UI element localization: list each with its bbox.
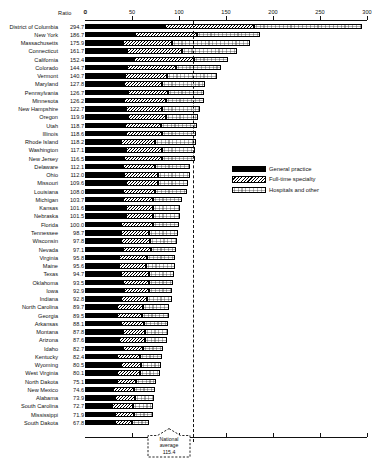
- row-state-label: California: [34, 57, 58, 63]
- bar-segment-general-practice: [85, 280, 123, 286]
- bar-segment-hospitals-and-other: [132, 420, 149, 426]
- bar-segment-hospitals-and-other: [153, 197, 183, 203]
- bar-segment-hospitals-and-other: [135, 395, 155, 401]
- bar-segment-full-time-specialty: [123, 189, 155, 195]
- bar-segment-full-time-specialty: [128, 90, 167, 96]
- stacked-bar: [85, 370, 160, 376]
- stacked-bar: [85, 40, 250, 46]
- table-row: West Virginia80.1: [0, 370, 376, 378]
- stacked-bar: [85, 164, 190, 170]
- row-ratio-value: 74.6: [58, 387, 84, 393]
- bar-segment-full-time-specialty: [165, 24, 254, 30]
- bar-segment-general-practice: [85, 73, 125, 79]
- row-state-label: Michigan: [36, 197, 58, 203]
- bar-segment-general-practice: [85, 379, 117, 385]
- bar-segment-full-time-specialty: [112, 403, 133, 409]
- bar-segment-general-practice: [85, 180, 126, 186]
- row-state-label: Arizona: [39, 337, 58, 343]
- row-state-label: Alabama: [36, 395, 58, 401]
- x-tick-label-300: 300: [362, 9, 371, 15]
- bar-segment-full-time-specialty: [126, 106, 162, 112]
- bar-segment-full-time-specialty: [127, 65, 176, 71]
- x-tick-bottom-50: [132, 433, 133, 437]
- bar-segment-hospitals-and-other: [140, 370, 161, 376]
- stacked-bar: [85, 387, 155, 393]
- x-tick-bottom-300: [367, 433, 368, 437]
- bar-segment-hospitals-and-other: [155, 164, 191, 170]
- row-ratio-value: 95.6: [58, 263, 84, 269]
- row-ratio-value: 175.9: [58, 40, 84, 46]
- bar-segment-general-practice: [85, 57, 134, 63]
- bar-segment-general-practice: [85, 98, 124, 104]
- row-state-label: Missouri: [37, 180, 58, 186]
- row-ratio-value: 186.7: [58, 32, 84, 38]
- x-tick-label-100: 100: [174, 9, 183, 15]
- bar-segment-full-time-specialty: [125, 73, 166, 79]
- bar-segment-general-practice: [85, 222, 121, 228]
- bar-segment-hospitals-and-other: [162, 131, 196, 137]
- bar-segment-general-practice: [85, 370, 117, 376]
- table-row: Connecticut161.7: [0, 48, 376, 56]
- bar-segment-general-practice: [85, 354, 117, 360]
- bar-segment-general-practice: [85, 247, 123, 253]
- stacked-bar: [85, 114, 198, 120]
- stacked-bar: [85, 98, 204, 104]
- national-average-callout: National average 115.4: [147, 428, 191, 458]
- bar-segment-full-time-specialty: [135, 32, 197, 38]
- x-tick-label-0: 0: [84, 9, 87, 15]
- bar-segment-general-practice: [85, 32, 135, 38]
- table-row: Kentucky82.4: [0, 353, 376, 361]
- bar-segment-hospitals-and-other: [142, 313, 169, 319]
- bar-segment-general-practice: [85, 296, 121, 302]
- bar-segment-full-time-specialty: [115, 420, 132, 426]
- bar-segment-full-time-specialty: [121, 271, 149, 277]
- stacked-bar: [85, 329, 168, 335]
- x-tick-100: [179, 16, 180, 20]
- row-ratio-value: 87.8: [58, 329, 84, 335]
- physician-ratio-chart: Ratio 050100150200250300 District of Col…: [0, 0, 376, 468]
- legend-label: Hospitals and other: [269, 187, 319, 193]
- bar-segment-full-time-specialty: [126, 131, 162, 137]
- row-state-label: New Jersey: [29, 156, 58, 162]
- row-ratio-value: 152.4: [58, 57, 84, 63]
- table-row: Michigan103.7: [0, 196, 376, 204]
- bar-segment-hospitals-and-other: [153, 222, 179, 228]
- bar-segment-hospitals-and-other: [153, 205, 181, 211]
- table-row: Missouri109.6: [0, 180, 376, 188]
- row-ratio-value: 109.6: [58, 180, 84, 186]
- bar-segment-general-practice: [85, 288, 124, 294]
- bar-segment-full-time-specialty: [115, 395, 135, 401]
- bar-segment-hospitals-and-other: [162, 81, 205, 87]
- bar-segment-full-time-specialty: [134, 57, 194, 63]
- stacked-bar: [85, 81, 205, 87]
- table-row: New York186.7: [0, 31, 376, 39]
- table-row: Alabama73.9: [0, 395, 376, 403]
- bar-segment-hospitals-and-other: [133, 403, 153, 409]
- bar-segment-hospitals-and-other: [197, 32, 261, 38]
- bar-segment-general-practice: [85, 48, 127, 54]
- bar-segment-general-practice: [85, 123, 125, 129]
- bar-segment-full-time-specialty: [127, 48, 182, 54]
- table-row: South Carolina72.7: [0, 403, 376, 411]
- stacked-bar: [85, 280, 173, 286]
- bar-segment-hospitals-and-other: [149, 271, 174, 277]
- stacked-bar: [85, 24, 362, 30]
- bar-segment-hospitals-and-other: [140, 354, 163, 360]
- table-row: Iowa92.9: [0, 287, 376, 295]
- row-state-label: Colorado: [35, 65, 58, 71]
- bar-segment-full-time-specialty: [123, 329, 146, 335]
- bar-segment-full-time-specialty: [115, 412, 134, 418]
- bar-segment-full-time-specialty: [123, 280, 149, 286]
- bar-segment-general-practice: [85, 313, 117, 319]
- row-state-label: West Virginia: [25, 370, 58, 376]
- bar-segment-general-practice: [85, 24, 165, 30]
- x-tick-bottom-250: [320, 433, 321, 437]
- row-state-label: Oregon: [39, 114, 58, 120]
- bar-segment-hospitals-and-other: [254, 24, 362, 30]
- x-tick-150: [226, 16, 227, 20]
- bar-segment-hospitals-and-other: [167, 73, 217, 79]
- row-ratio-value: 75.1: [58, 379, 84, 385]
- row-ratio-value: 140.7: [58, 73, 84, 79]
- bar-segment-hospitals-and-other: [146, 263, 175, 269]
- row-state-label: Massachusetts: [21, 40, 58, 46]
